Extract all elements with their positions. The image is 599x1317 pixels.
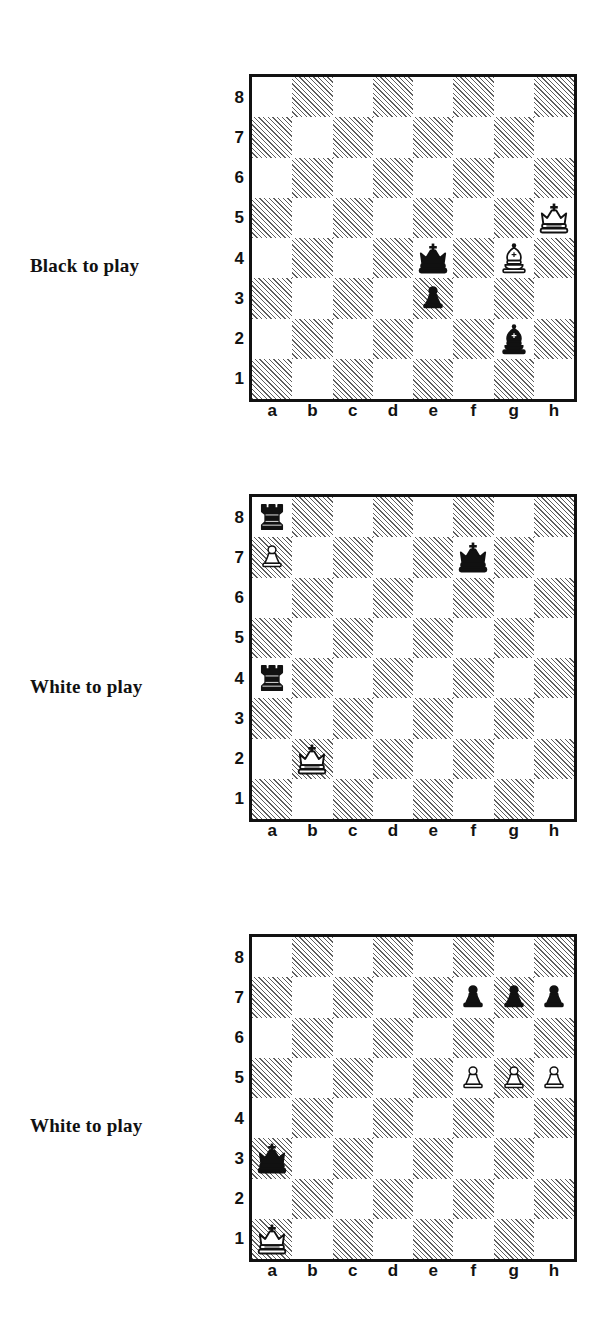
square-f2[interactable]	[453, 1179, 493, 1219]
square-g5[interactable]	[494, 1058, 534, 1098]
piece-black-pawn-h7[interactable]	[534, 977, 574, 1017]
square-c3[interactable]	[333, 1138, 373, 1178]
square-d7[interactable]	[373, 977, 413, 1017]
piece-black-king-a3[interactable]	[252, 1138, 292, 1178]
square-b4[interactable]	[292, 238, 332, 278]
piece-white-pawn-h5[interactable]	[534, 1058, 574, 1098]
square-f6[interactable]	[453, 158, 493, 198]
square-b5[interactable]	[292, 1058, 332, 1098]
square-g7[interactable]	[494, 117, 534, 157]
square-e5[interactable]	[413, 198, 453, 238]
square-d2[interactable]	[373, 1179, 413, 1219]
piece-black-pawn-f7[interactable]	[453, 977, 493, 1017]
square-h2[interactable]	[534, 319, 574, 359]
square-h3[interactable]	[534, 698, 574, 738]
square-g2[interactable]	[494, 319, 534, 359]
square-f3[interactable]	[453, 278, 493, 318]
square-h6[interactable]	[534, 158, 574, 198]
square-g2[interactable]	[494, 1179, 534, 1219]
square-g4[interactable]	[494, 658, 534, 698]
square-f6[interactable]	[453, 578, 493, 618]
square-c7[interactable]	[333, 977, 373, 1017]
square-f5[interactable]	[453, 618, 493, 658]
square-f6[interactable]	[453, 1018, 493, 1058]
square-f1[interactable]	[453, 1219, 493, 1259]
piece-black-pawn-g7[interactable]	[494, 977, 534, 1017]
square-f4[interactable]	[453, 1098, 493, 1138]
square-g6[interactable]	[494, 578, 534, 618]
square-b3[interactable]	[292, 1138, 332, 1178]
square-g2[interactable]	[494, 739, 534, 779]
square-b3[interactable]	[292, 698, 332, 738]
square-a6[interactable]	[252, 158, 292, 198]
square-d6[interactable]	[373, 578, 413, 618]
square-d6[interactable]	[373, 158, 413, 198]
square-e1[interactable]	[413, 1219, 453, 1259]
square-e6[interactable]	[413, 578, 453, 618]
square-e2[interactable]	[413, 319, 453, 359]
square-a2[interactable]	[252, 1179, 292, 1219]
square-c8[interactable]	[333, 77, 373, 117]
square-f2[interactable]	[453, 739, 493, 779]
square-a3[interactable]	[252, 1138, 292, 1178]
square-c2[interactable]	[333, 1179, 373, 1219]
square-g6[interactable]	[494, 1018, 534, 1058]
square-g6[interactable]	[494, 158, 534, 198]
square-h3[interactable]	[534, 278, 574, 318]
chessboard[interactable]	[249, 494, 577, 822]
square-c6[interactable]	[333, 158, 373, 198]
square-a3[interactable]	[252, 698, 292, 738]
square-h6[interactable]	[534, 578, 574, 618]
square-d1[interactable]	[373, 779, 413, 819]
square-d5[interactable]	[373, 618, 413, 658]
square-b8[interactable]	[292, 497, 332, 537]
square-a8[interactable]	[252, 937, 292, 977]
square-b3[interactable]	[292, 278, 332, 318]
chessboard[interactable]	[249, 74, 577, 402]
square-d4[interactable]	[373, 238, 413, 278]
square-h7[interactable]	[534, 977, 574, 1017]
square-a5[interactable]	[252, 1058, 292, 1098]
square-d3[interactable]	[373, 1138, 413, 1178]
square-f7[interactable]	[453, 537, 493, 577]
piece-black-rook-a4[interactable]	[252, 658, 292, 698]
square-e3[interactable]	[413, 1138, 453, 1178]
square-d7[interactable]	[373, 537, 413, 577]
square-a2[interactable]	[252, 739, 292, 779]
chessboard[interactable]	[249, 934, 577, 1262]
square-g7[interactable]	[494, 537, 534, 577]
square-f3[interactable]	[453, 1138, 493, 1178]
square-g7[interactable]	[494, 977, 534, 1017]
square-d2[interactable]	[373, 319, 413, 359]
square-c2[interactable]	[333, 739, 373, 779]
piece-black-pawn-e3[interactable]	[413, 278, 453, 318]
square-g1[interactable]	[494, 779, 534, 819]
square-a1[interactable]	[252, 1219, 292, 1259]
square-g1[interactable]	[494, 1219, 534, 1259]
square-h8[interactable]	[534, 77, 574, 117]
square-e4[interactable]	[413, 238, 453, 278]
square-e1[interactable]	[413, 779, 453, 819]
square-e6[interactable]	[413, 1018, 453, 1058]
square-h1[interactable]	[534, 779, 574, 819]
square-h3[interactable]	[534, 1138, 574, 1178]
piece-white-pawn-g5[interactable]	[494, 1058, 534, 1098]
square-e5[interactable]	[413, 1058, 453, 1098]
square-b2[interactable]	[292, 739, 332, 779]
square-c8[interactable]	[333, 497, 373, 537]
square-a2[interactable]	[252, 319, 292, 359]
square-d5[interactable]	[373, 1058, 413, 1098]
piece-white-pawn-f5[interactable]	[453, 1058, 493, 1098]
square-e8[interactable]	[413, 77, 453, 117]
square-b1[interactable]	[292, 779, 332, 819]
square-c4[interactable]	[333, 1098, 373, 1138]
square-d1[interactable]	[373, 359, 413, 399]
square-f8[interactable]	[453, 77, 493, 117]
square-g3[interactable]	[494, 1138, 534, 1178]
square-c1[interactable]	[333, 1219, 373, 1259]
square-g3[interactable]	[494, 698, 534, 738]
square-b1[interactable]	[292, 359, 332, 399]
square-c1[interactable]	[333, 359, 373, 399]
square-c6[interactable]	[333, 1018, 373, 1058]
square-a1[interactable]	[252, 359, 292, 399]
